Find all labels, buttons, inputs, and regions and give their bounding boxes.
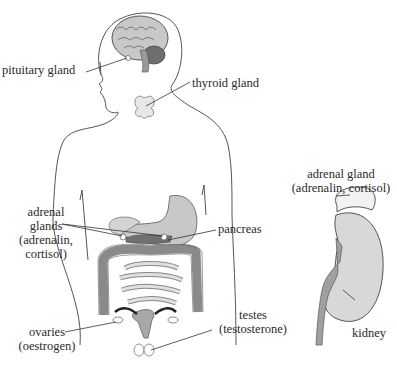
arm-line-left	[80, 190, 88, 260]
thyroid-gland	[135, 96, 154, 118]
endocrine-diagram: pituitary gland thyroid gland adrenal gl…	[0, 0, 397, 365]
label-thyroid: thyroid gland	[192, 76, 259, 90]
small-intestine	[120, 264, 182, 304]
label-adrenal-gland-detail: adrenal gland (adrenalin, cortisol)	[285, 167, 397, 195]
label-pancreas: pancreas	[218, 222, 262, 236]
label-line: (adrenalin,	[14, 233, 78, 247]
label-line: glands	[14, 219, 78, 233]
label-line: (oestrogen)	[14, 339, 80, 353]
ovary-right	[168, 317, 178, 323]
label-ovaries: ovaries (oestrogen)	[14, 325, 80, 353]
label-line: cortisol)	[14, 247, 78, 261]
label-testes: testes (testosterone)	[210, 308, 296, 336]
adrenal-right	[161, 234, 167, 240]
label-line: testes	[210, 308, 296, 322]
label-line: (testosterone)	[210, 322, 296, 336]
testis-right	[144, 344, 154, 356]
label-line: ovaries	[14, 325, 80, 339]
adrenal-left	[120, 234, 126, 240]
large-intestine	[103, 249, 198, 315]
label-line: adrenal gland	[285, 167, 397, 181]
testis-left	[134, 344, 144, 356]
label-adrenal-glands: adrenal glands (adrenalin, cortisol)	[14, 205, 78, 261]
label-line: adrenal	[14, 205, 78, 219]
label-kidney: kidney	[352, 326, 386, 340]
arm-line-right	[202, 185, 206, 215]
label-pituitary: pituitary gland	[2, 63, 75, 77]
leader-pituitary	[86, 58, 127, 72]
label-line: (adrenalin, cortisol)	[285, 181, 397, 195]
kidney	[324, 213, 383, 322]
leader-testes	[151, 330, 212, 350]
